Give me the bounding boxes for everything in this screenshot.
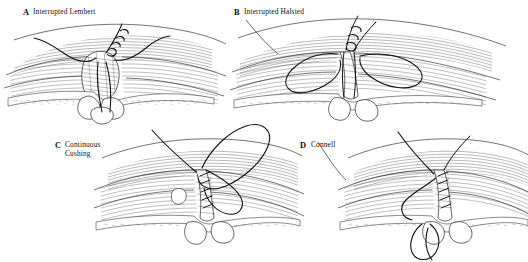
panel-c-letter: C [55, 141, 61, 150]
panel-d-illustration [320, 124, 528, 262]
panel-b-illustration [220, 0, 520, 131]
panel-connell: D Connell [320, 124, 528, 262]
panel-a-illustration [0, 0, 230, 131]
serosa-hatching-left [338, 160, 438, 222]
suture-free-ends [346, 16, 376, 50]
panel-interrupted-lembert: A Interrupted Lembert [0, 0, 230, 131]
serosa-hatching-right [206, 162, 304, 222]
suture-bite-node [171, 188, 186, 204]
bowel-seam [434, 170, 452, 221]
label-leader-line [246, 20, 278, 54]
bowel-seam [196, 170, 215, 221]
figure-root: A Interrupted Lembert [0, 0, 528, 262]
serosa-contours [338, 139, 528, 216]
panel-d-letter: D [300, 141, 306, 150]
panel-interrupted-halsted: B Interrupted Halsted [220, 0, 520, 131]
panel-continuous-cushing: C Continuous Cushing [90, 124, 300, 262]
label-leader-line [318, 142, 346, 180]
serosa-hatching-right [444, 162, 528, 218]
suture-upper-tail [444, 136, 470, 170]
panel-c-illustration [90, 124, 300, 262]
